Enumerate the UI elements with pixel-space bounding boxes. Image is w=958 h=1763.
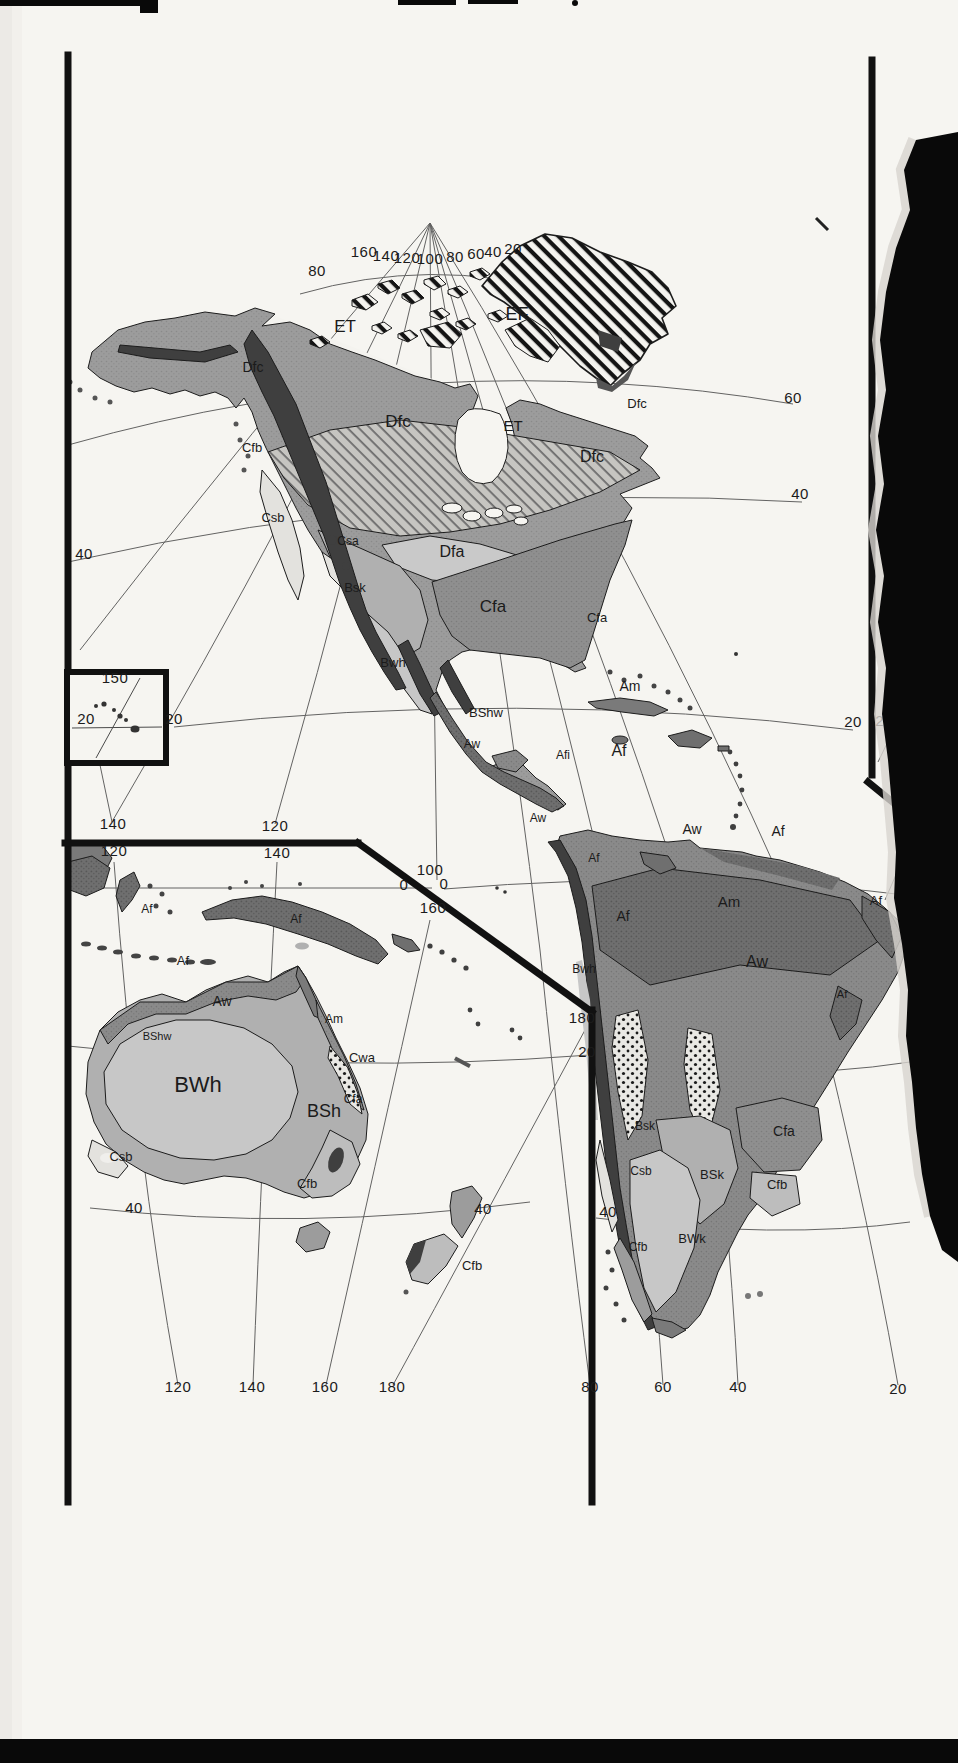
climate-zone-label: Cfb	[242, 440, 262, 455]
coordinate-label: 20	[889, 1380, 907, 1397]
climate-zone-label: Am	[718, 893, 741, 910]
coordinate-label: 80	[446, 248, 464, 265]
climate-zone-label: BWh	[174, 1072, 222, 1097]
climate-zone-label: Cfb	[462, 1258, 482, 1273]
climate-zone-label: Cfa	[480, 597, 507, 616]
climate-zone-label: Af	[870, 893, 883, 908]
climate-zone-label: Af	[611, 742, 627, 759]
stray-mark	[816, 218, 828, 230]
climate-zone-label: Afi	[556, 748, 570, 762]
climate-zone-label: Aw	[530, 811, 547, 825]
hudson-bay	[455, 409, 508, 484]
new-guinea-light-patch	[295, 943, 309, 950]
climate-zone-label: Cfa	[587, 610, 608, 625]
climate-zone-label: Af	[290, 912, 302, 926]
coordinate-label: 40	[729, 1378, 747, 1395]
coordinate-label: 120	[101, 842, 128, 859]
great-lake	[485, 508, 503, 518]
top-scan-mark	[572, 0, 578, 6]
coordinate-label: 80	[308, 262, 326, 279]
coordinate-label: 20	[504, 240, 522, 257]
climate-zone-label: Csb	[630, 1164, 652, 1178]
coordinate-label: 100	[417, 250, 444, 267]
coordinate-label: 60	[784, 389, 802, 406]
climate-zone-label: Cfb	[767, 1177, 787, 1192]
climate-zone-label: Aw	[464, 737, 481, 751]
climate-zone-label: BShw	[469, 705, 504, 720]
coordinate-label: 40	[599, 1203, 617, 1220]
landmasses	[68, 234, 909, 1338]
climate-zone-label: Aw	[212, 993, 232, 1009]
climate-zone-label: Csb	[109, 1149, 132, 1164]
climate-zone-label: BSk	[700, 1167, 724, 1182]
coordinate-label: 0	[400, 876, 409, 893]
solomon-islands	[427, 943, 468, 970]
climate-zone-label: Dfc	[627, 396, 647, 411]
climate-zone-label: Cfb	[297, 1176, 317, 1191]
inset-diagonal-border	[358, 843, 592, 1012]
great-lake	[463, 511, 481, 521]
coordinate-label: 150	[102, 669, 129, 686]
climate-zone-label: Cfa	[773, 1123, 795, 1139]
coordinate-label: 140	[100, 815, 127, 832]
coordinate-label: 40	[474, 1200, 492, 1217]
coordinate-label: 140	[239, 1378, 266, 1395]
coordinate-label: 120	[165, 1378, 192, 1395]
climate-zone-label: BShw	[143, 1030, 172, 1042]
climate-zone-label: Csa	[337, 534, 359, 548]
coordinate-label: 160	[312, 1378, 339, 1395]
great-lake	[506, 505, 522, 513]
aleutian-islands	[68, 380, 113, 405]
page-edge-shading	[0, 0, 22, 1763]
tasmania	[296, 1222, 330, 1252]
climate-zone-label: Bsk	[344, 580, 366, 595]
top-scan-mark	[140, 0, 158, 13]
climate-zone-label: Dfc	[385, 412, 411, 431]
bottom-scan-bar	[0, 1739, 958, 1763]
coordinate-label: 20	[165, 710, 183, 727]
coordinate-label: 20	[77, 710, 95, 727]
climate-zone-label: EF	[505, 304, 528, 324]
coordinate-label: 180	[569, 1009, 596, 1026]
climate-zone-label: Af	[177, 953, 190, 968]
coordinate-label: 120	[262, 817, 289, 834]
arctic-archipelago	[310, 268, 508, 348]
coordinate-label: 40	[125, 1199, 143, 1216]
torn-page-edge	[876, 132, 958, 1262]
new-britain	[392, 934, 420, 952]
coordinate-label: 0	[440, 875, 449, 892]
coordinate-label: 20	[844, 713, 862, 730]
climate-zone-label: Am	[325, 1012, 343, 1026]
new-guinea	[202, 896, 388, 964]
lesser-antilles	[728, 750, 745, 830]
climate-zone-label: Am	[620, 678, 641, 694]
climate-zone-label: Cfb	[629, 1240, 648, 1254]
climate-zone-label: Dfa	[440, 543, 465, 560]
coordinate-label: 180	[379, 1378, 406, 1395]
scanned-atlas-page: ETEFDfcDfcCfbETDfcDfcCsbCsaDfaBskCfaCfaB…	[0, 0, 958, 1763]
climate-zone-label: Bsk	[635, 1119, 656, 1133]
climate-zone-label: Bwh	[380, 655, 405, 670]
coordinate-label: 40	[791, 485, 809, 502]
climate-zone-label: Aw	[682, 821, 702, 837]
climate-zone-label: Af	[588, 851, 600, 865]
climate-zone-label: Dfc	[580, 448, 604, 465]
climate-zone-label: Bwh	[572, 962, 595, 976]
galapagos	[495, 886, 507, 894]
coordinate-label: 140	[264, 844, 291, 861]
falkland-islands	[745, 1291, 763, 1299]
climate-zone-label: ET	[503, 417, 522, 434]
coordinate-label: 40	[484, 243, 502, 260]
lesser-sunda-chain	[81, 942, 216, 966]
climate-zone-label: Af	[837, 988, 848, 1000]
climate-zone-label: Cwa	[349, 1050, 376, 1065]
climate-zone-label: Dfc	[243, 359, 264, 375]
coordinate-label: 160	[420, 899, 447, 916]
great-lake	[442, 503, 462, 513]
climate-zone-label: Cfa	[344, 1092, 363, 1106]
coordinate-label: 40	[75, 545, 93, 562]
top-scan-mark	[468, 0, 518, 4]
vanuatu-fiji	[468, 1008, 523, 1041]
hispaniola	[668, 730, 712, 748]
climate-zone-label: BSh	[307, 1101, 341, 1121]
